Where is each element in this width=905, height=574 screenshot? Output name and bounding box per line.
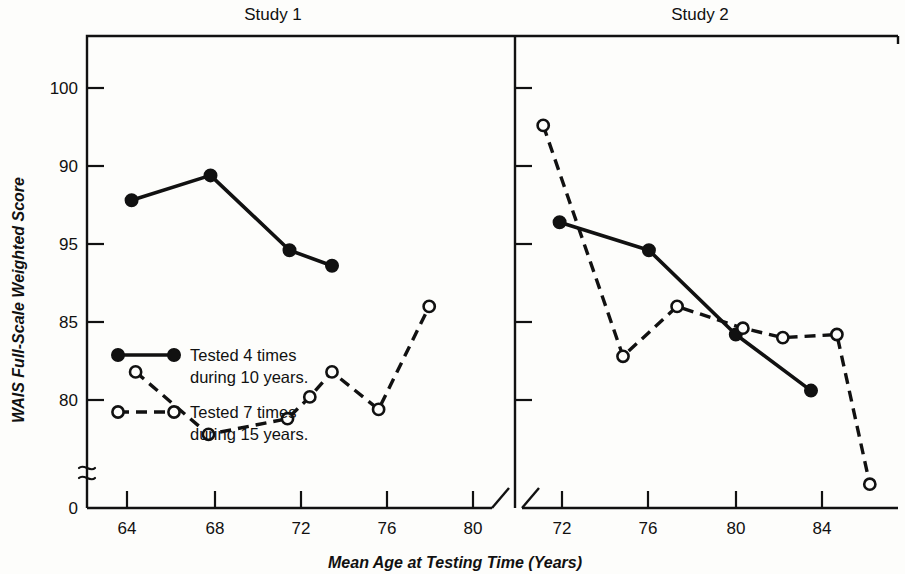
legend-marker-open-circle xyxy=(112,406,123,417)
y-tick-label: 100 xyxy=(50,79,78,98)
data-point xyxy=(617,351,628,362)
data-point xyxy=(831,329,842,340)
y-tick-label: 0 xyxy=(69,499,78,518)
data-point xyxy=(737,323,748,334)
x-tick-label: 64 xyxy=(118,519,137,538)
x-tick-label: 72 xyxy=(553,519,572,538)
legend-item-2: Tested 7 timesduring 15 years. xyxy=(112,403,308,443)
panel-title-study-1: Study 1 xyxy=(244,5,302,24)
legend-label-line-2: during 15 years. xyxy=(190,425,308,443)
data-point xyxy=(777,332,788,343)
x-tick-label: 84 xyxy=(813,519,832,538)
data-point xyxy=(805,384,817,396)
x-axis-ticks-panel-2: 72768084 xyxy=(553,491,832,538)
x-tick-label: 72 xyxy=(292,519,311,538)
legend-marker-filled-circle xyxy=(168,349,180,361)
x-tick-label: 76 xyxy=(639,519,658,538)
y-tick-label: 85 xyxy=(59,313,78,332)
series-tested-4-times-panel-2 xyxy=(553,216,817,397)
series-tested-4-times-panel-1 xyxy=(125,169,338,272)
data-point xyxy=(424,301,435,312)
chart-legend: Tested 4 timesduring 10 years.Tested 7 t… xyxy=(112,346,309,443)
data-point xyxy=(283,244,295,256)
legend-marker-open-circle xyxy=(168,406,179,417)
data-point xyxy=(672,301,683,312)
data-point xyxy=(553,216,565,228)
y-tick-label: 95 xyxy=(59,235,78,254)
y-tick-label: 80 xyxy=(59,391,78,410)
chart-canvas: Study 1 Study 2 WAIS Full-Scale Weighted… xyxy=(0,0,905,574)
legend-marker-filled-circle xyxy=(112,349,124,361)
x-tick-label: 80 xyxy=(727,519,746,538)
data-point xyxy=(125,194,137,206)
y-tick-label: 90 xyxy=(59,157,78,176)
legend-item-1: Tested 4 timesduring 10 years. xyxy=(112,346,309,386)
x-axis-label: Mean Age at Testing Time (Years) xyxy=(328,554,582,571)
y-axis-ticks-panel-1: 100909585800 xyxy=(50,79,104,518)
data-point xyxy=(204,169,216,181)
data-point xyxy=(326,366,337,377)
data-point xyxy=(864,479,875,490)
x-tick-label: 76 xyxy=(378,519,397,538)
x-tick-label: 68 xyxy=(206,519,225,538)
data-point xyxy=(326,260,338,272)
panel-title-study-2: Study 2 xyxy=(671,5,729,24)
chart-figure: Study 1 Study 2 WAIS Full-Scale Weighted… xyxy=(0,0,905,574)
data-point xyxy=(538,120,549,131)
legend-label-line-2: during 10 years. xyxy=(190,368,308,386)
panel-2-frame xyxy=(515,36,898,508)
y-axis-ticks-panel-2 xyxy=(515,88,532,400)
data-point xyxy=(643,244,655,256)
x-axis-ticks-panel-1: 6468727680 xyxy=(118,491,483,538)
x-tick-label: 80 xyxy=(464,519,483,538)
data-point xyxy=(130,366,141,377)
y-axis-label: WAIS Full-Scale Weighted Score xyxy=(10,177,27,423)
legend-label-line-1: Tested 7 times xyxy=(190,403,296,421)
data-point xyxy=(373,404,384,415)
legend-label-line-1: Tested 4 times xyxy=(190,346,296,364)
data-point xyxy=(304,391,315,402)
